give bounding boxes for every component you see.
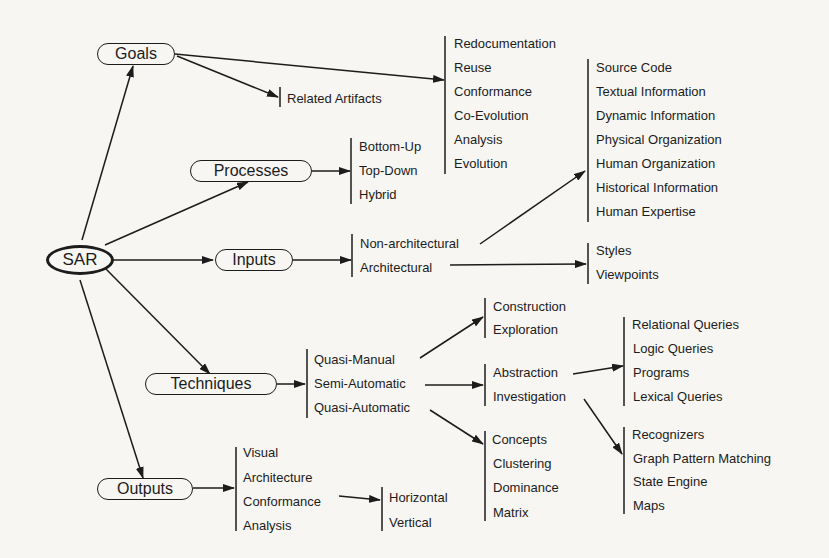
node-techniques: Techniques — [145, 373, 277, 395]
node-outputs: Outputs — [97, 478, 193, 500]
list-item: Exploration — [493, 322, 558, 338]
list-item: Top-Down — [359, 163, 418, 179]
node-goals: Goals — [97, 43, 175, 65]
edge-arch-items — [450, 264, 586, 265]
edge-investigation-items — [584, 399, 622, 454]
list-item: Hybrid — [359, 187, 397, 203]
node-processes: Processes — [190, 160, 312, 182]
list-item: Analysis — [243, 518, 291, 534]
related-artifacts-label: Related Artifacts — [287, 91, 382, 107]
list-item: Historical Information — [596, 180, 718, 196]
edge-sar-outputs — [80, 280, 143, 478]
list-item: Dynamic Information — [596, 108, 715, 124]
list-item: Styles — [596, 243, 631, 259]
list-item: Physical Organization — [596, 132, 722, 148]
list-item: State Engine — [633, 474, 707, 490]
list-item: Architectural — [360, 260, 432, 276]
list-item: Recognizers — [632, 427, 704, 443]
edge-nonarch-items — [480, 171, 585, 244]
list-item: Non-architectural — [360, 236, 459, 252]
list-item: Dominance — [493, 480, 559, 496]
list-item: Reuse — [454, 60, 492, 76]
list-item: Relational Queries — [632, 317, 739, 333]
list-item: Conformance — [243, 494, 321, 510]
list-item: Graph Pattern Matching — [633, 451, 771, 467]
list-item: Matrix — [493, 505, 528, 521]
list-item: Human Expertise — [596, 204, 696, 220]
edge-sar-processes — [105, 182, 248, 245]
edge-conformance-items — [339, 496, 380, 500]
edge-sar-goals — [82, 66, 133, 240]
list-item: Clustering — [493, 456, 552, 472]
list-item: Semi-Automatic — [314, 376, 406, 392]
list-item: Visual — [243, 445, 278, 461]
list-item: Horizontal — [389, 490, 448, 506]
list-item: Construction — [493, 299, 566, 315]
edge-sar-techniques — [105, 268, 210, 374]
list-item: Viewpoints — [596, 267, 659, 283]
list-item: Conformance — [454, 84, 532, 100]
list-item: Co-Evolution — [454, 108, 528, 124]
list-item: Quasi-Manual — [314, 352, 395, 368]
list-item: Logic Queries — [633, 341, 713, 357]
list-item: Evolution — [454, 156, 507, 172]
edge-manual-items — [420, 317, 483, 358]
list-item: Concepts — [492, 432, 547, 448]
list-item: Maps — [633, 498, 665, 514]
list-item: Human Organization — [596, 156, 715, 172]
edge-goals-items — [175, 54, 444, 80]
list-item: Architecture — [243, 470, 312, 486]
list-item: Lexical Queries — [633, 389, 723, 405]
list-item: Investigation — [493, 389, 566, 405]
list-item: Quasi-Automatic — [314, 400, 410, 416]
list-item: Bottom-Up — [359, 139, 421, 155]
list-item: Textual Information — [596, 84, 706, 100]
list-item: Redocumentation — [454, 36, 556, 52]
list-item: Programs — [633, 365, 689, 381]
edge-auto-items — [430, 410, 483, 444]
root-node-sar: SAR — [46, 245, 114, 275]
list-item: Abstraction — [493, 365, 558, 381]
edge-abstraction-items — [573, 366, 623, 374]
list-item: Vertical — [389, 515, 432, 531]
list-item: Source Code — [596, 60, 672, 76]
list-item: Analysis — [454, 132, 502, 148]
node-inputs: Inputs — [215, 249, 293, 271]
